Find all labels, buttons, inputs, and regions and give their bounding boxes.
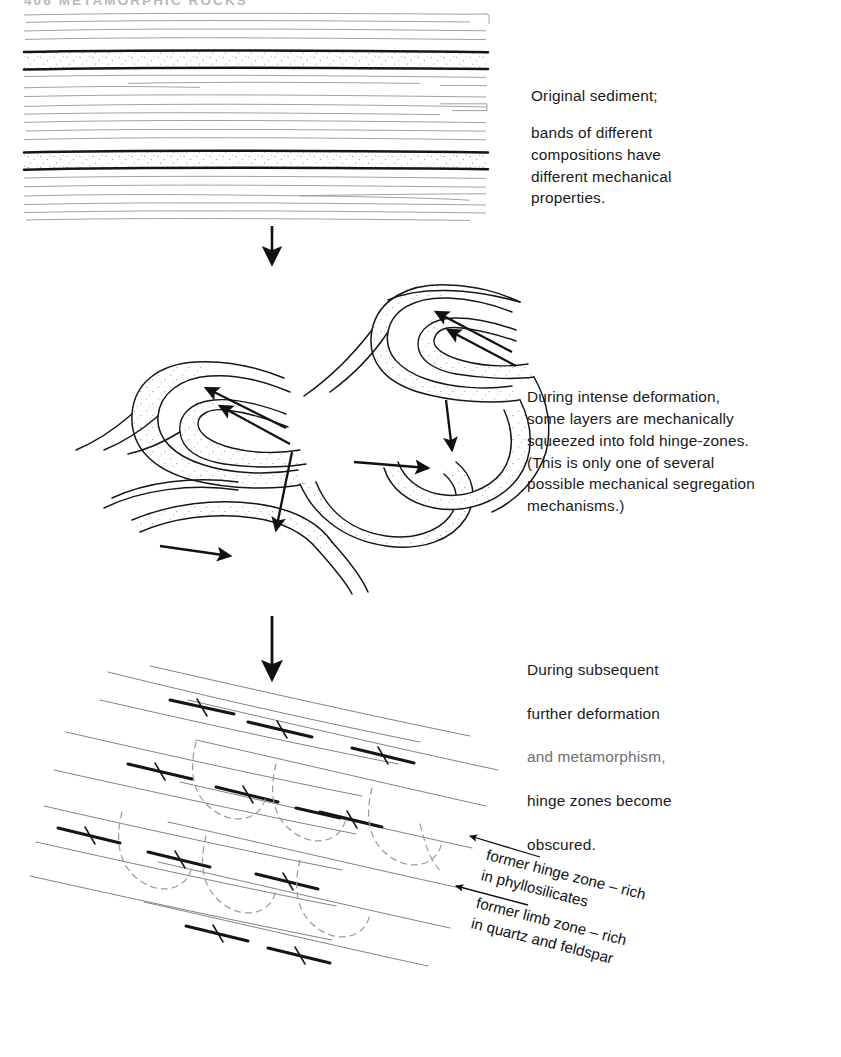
caption-stage-3-line-2: further deformation — [527, 703, 827, 725]
stage1-fine-laminations-mid — [24, 75, 487, 140]
caption-stage-3-line-3: and metamorphism, — [527, 746, 827, 768]
stage3-mica-segments — [58, 699, 414, 964]
caption-stage-3-line-4: hinge zones become — [527, 790, 827, 812]
stage3-transposed-foliation — [30, 666, 540, 966]
stage2-tail-limb-2 — [318, 550, 352, 594]
mica-segment-7 — [58, 828, 120, 843]
caption-stage-3-line-5: obscured. — [527, 834, 827, 856]
stage1-bedded-sediment — [24, 13, 489, 220]
caption-stage-2: During intense deformation, some layers … — [527, 364, 839, 517]
caption-stage-3: During subsequent further deformation an… — [527, 637, 827, 878]
mica-segment-8 — [148, 852, 210, 867]
figure-page: 406 METAMORPHIC ROCKS — [0, 0, 841, 1057]
mica-segment-11 — [268, 948, 330, 963]
stage2-tail-limb — [332, 542, 368, 592]
mica-segment-5 — [216, 787, 278, 802]
stage1-edge-tick-top — [486, 14, 489, 24]
flow-arrow-1 — [436, 312, 512, 352]
stage3-foliation-traces — [30, 666, 498, 966]
mica-segment-10 — [186, 926, 248, 941]
caption-stage-3-line-1: During subsequent — [527, 659, 827, 681]
stage2-fold-band-g-fill — [132, 502, 332, 550]
stage2-isoclinal-folds — [76, 285, 549, 594]
caption-stage-1-lead: Original sediment; — [531, 85, 831, 107]
caption-stage-1-body: bands of different compositions have dif… — [531, 124, 671, 207]
caption-stage-2-body: During intense deformation, some layers … — [527, 388, 755, 514]
stage2-fold-band-b-fill — [418, 318, 534, 378]
stage1-fine-laminations-lower — [24, 176, 486, 220]
flow-arrow-5 — [446, 400, 452, 450]
mica-segment-12 — [296, 808, 340, 818]
stage1-thick-band-4 — [24, 168, 488, 170]
stage1-fine-laminations — [24, 13, 487, 39]
caption-stage-1: Original sediment;bands of different com… — [531, 63, 831, 209]
flow-arrow-8 — [160, 546, 230, 556]
stage1-thick-band-2 — [24, 67, 488, 69]
